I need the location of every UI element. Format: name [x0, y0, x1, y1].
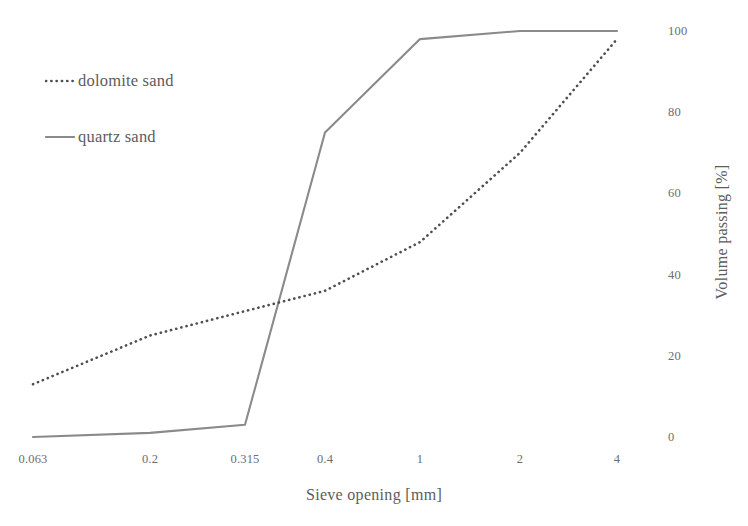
- y-tick-label-40: 40: [668, 268, 681, 283]
- series-line-quartz-sand: [33, 31, 617, 437]
- x-tick-label-4: 1: [417, 452, 423, 467]
- x-tick-label-0: 0.063: [18, 452, 47, 467]
- x-tick-label-3: 0.4: [317, 452, 333, 467]
- legend-label-quartz-sand: quartz sand: [78, 127, 156, 147]
- x-axis-title: Sieve opening [mm]: [306, 486, 442, 504]
- legend-item-quartz-sand: quartz sand: [45, 128, 156, 146]
- y-tick-label-100: 100: [668, 24, 687, 39]
- x-tick-label-5: 2: [517, 452, 523, 467]
- chart-figure: 0.063 0.2 0.315 0.4 1 2 4 0 20 40 60 80 …: [0, 0, 748, 526]
- y-tick-label-0: 0: [668, 430, 674, 445]
- y-tick-label-60: 60: [668, 186, 681, 201]
- legend-label-dolomite-sand: dolomite sand: [78, 71, 174, 91]
- legend-item-dolomite-sand: dolomite sand: [45, 72, 174, 90]
- legend-swatch-solid-icon: [45, 130, 75, 144]
- y-axis-title: Volume passing [%]: [713, 165, 731, 300]
- x-tick-label-1: 0.2: [142, 452, 158, 467]
- legend-swatch-dotted-icon: [45, 74, 75, 88]
- y-tick-label-20: 20: [668, 349, 681, 364]
- x-tick-label-2: 0.315: [230, 452, 259, 467]
- y-tick-label-80: 80: [668, 105, 681, 120]
- x-tick-label-6: 4: [614, 452, 620, 467]
